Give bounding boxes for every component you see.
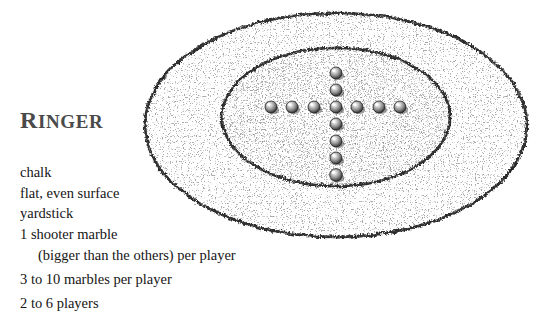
marble <box>351 101 365 114</box>
marble <box>373 101 387 114</box>
materials-text-block: RINGER chalk flat, even surface yardstic… <box>20 108 270 313</box>
marble <box>330 101 344 114</box>
marble <box>286 101 300 114</box>
list-item: chalk <box>20 162 270 183</box>
marble <box>330 67 344 80</box>
page-title-rest: INGER <box>38 111 103 132</box>
marble <box>330 135 344 148</box>
marble <box>394 101 408 114</box>
marble <box>330 118 344 131</box>
page-title-initial: R <box>20 107 38 133</box>
list-item: 2 to 6 players <box>20 290 270 314</box>
list-item: flat, even surface <box>20 183 270 204</box>
list-item: (bigger than the others) per player <box>20 244 270 266</box>
marble <box>330 152 344 165</box>
list-item: 1 shooter marble <box>20 224 270 245</box>
marble <box>330 84 344 97</box>
list-item: 3 to 10 marbles per player <box>20 266 270 290</box>
list-item: yardstick <box>20 203 270 224</box>
materials-list: chalk flat, even surface yardstick 1 sho… <box>20 162 270 313</box>
page-title: RINGER <box>20 108 270 132</box>
marble-row-horizontal <box>265 101 408 114</box>
ringer-illustration-page: RINGER chalk flat, even surface yardstic… <box>0 0 542 331</box>
marble <box>330 169 345 183</box>
marble-column-vertical <box>330 67 345 182</box>
marble <box>308 101 322 114</box>
